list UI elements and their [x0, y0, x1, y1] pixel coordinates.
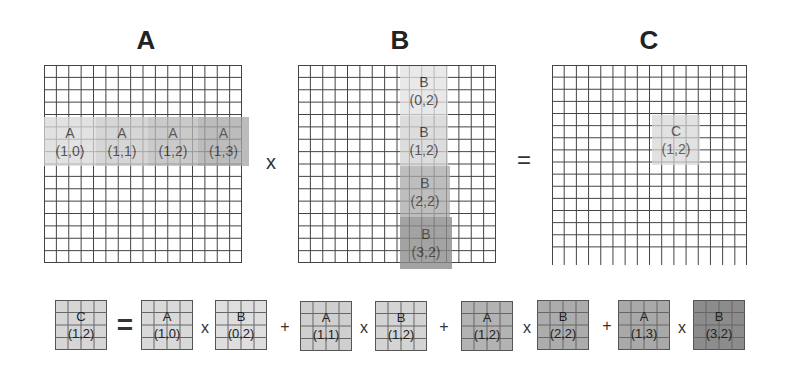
equation-equals: =: [117, 311, 133, 339]
equation-term1-a: A(1,0): [141, 300, 193, 350]
tile-index: (1,1): [313, 326, 340, 343]
tile-index: (1,3): [631, 325, 658, 342]
tile-index: (0,2): [410, 91, 439, 109]
tile-name: A: [322, 309, 331, 326]
tile-name: C: [76, 308, 85, 325]
matrix-a-tile-1-0: A (1,0): [44, 117, 96, 166]
equation-lhs-c-1-2: C(1,2): [55, 300, 107, 350]
tile-index: (1,1): [108, 142, 137, 160]
tile-index: (1,0): [154, 325, 181, 342]
tile-index: (1,2): [68, 325, 95, 342]
equation-term1-b: B(0,2): [215, 300, 267, 350]
matrix-b-grid: [298, 65, 496, 263]
matrix-c-tile-1-2: C (1,2): [652, 115, 700, 165]
tile-name: A: [163, 308, 172, 325]
tile-index: (1,2): [410, 141, 439, 159]
tile-index: (1,3): [209, 142, 238, 160]
matrix-a-title: A: [137, 27, 156, 53]
tile-index: (1,2): [474, 326, 501, 343]
tile-index: (1,2): [662, 140, 691, 158]
tile-name: B: [559, 308, 568, 325]
tile-name: A: [168, 124, 177, 142]
equation-term4-b: B(3,2): [693, 300, 745, 350]
tile-name: B: [419, 123, 428, 141]
equation-times-3: x: [523, 320, 531, 336]
equation-term4-a: A(1,3): [618, 300, 670, 350]
equation-term3-b: B(2,2): [537, 300, 589, 350]
tile-index: (0,2): [228, 325, 255, 342]
matrix-c-grid: [552, 65, 747, 265]
equation-plus-2: +: [439, 319, 448, 335]
tile-index: (1,2): [388, 326, 415, 343]
tile-name: B: [397, 309, 406, 326]
tile-index: (1,2): [159, 142, 188, 160]
matrix-b-tile-1-2: B (1,2): [400, 116, 448, 166]
equation-plus-1: +: [280, 319, 289, 335]
tile-index: (2,2): [411, 192, 440, 210]
tile-name: B: [420, 174, 429, 192]
tile-name: A: [640, 308, 649, 325]
tile-index: (1,0): [56, 142, 85, 160]
tile-index: (3,2): [706, 325, 733, 342]
matrix-b-tile-2-2: B (2,2): [400, 166, 450, 217]
equation-term3-a: A(1,2): [461, 301, 513, 351]
equation-times-2: x: [360, 320, 368, 336]
tile-name: B: [715, 308, 724, 325]
tile-name: B: [419, 73, 428, 91]
tile-name: C: [671, 122, 681, 140]
tile-name: A: [219, 124, 228, 142]
times-operator: x: [266, 152, 276, 172]
tile-name: A: [483, 309, 492, 326]
tile-name: B: [421, 225, 430, 243]
matrix-a-tile-1-3: A (1,3): [198, 117, 249, 166]
equation-times-4: x: [678, 320, 686, 336]
matrix-a-tile-1-1: A (1,1): [96, 117, 148, 166]
tile-index: (3,2): [412, 243, 441, 261]
tile-name: A: [117, 124, 126, 142]
equals-operator: =: [517, 148, 531, 172]
matrix-c-title: C: [640, 27, 659, 53]
tile-name: B: [237, 308, 246, 325]
equation-term2-a: A(1,1): [300, 301, 352, 351]
matrix-b-tile-3-2: B (3,2): [400, 217, 452, 269]
equation-times-1: x: [201, 320, 209, 336]
matrix-a-tile-1-2: A (1,2): [148, 117, 198, 166]
tile-name: A: [65, 124, 74, 142]
equation-plus-3: +: [602, 318, 611, 334]
matrix-b-tile-0-2: B (0,2): [400, 66, 448, 116]
equation-term2-b: B(1,2): [375, 301, 427, 351]
matrix-b-title: B: [391, 27, 410, 53]
tile-index: (2,2): [550, 325, 577, 342]
